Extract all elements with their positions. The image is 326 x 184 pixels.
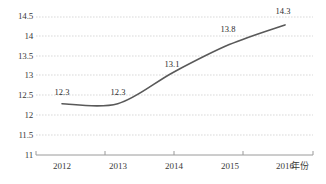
y-tick-label: 13.5 xyxy=(18,52,33,61)
x-tick-label-2014: 2014 xyxy=(165,162,183,171)
data-label-2014: 13.1 xyxy=(165,60,180,69)
y-tick-label: 13 xyxy=(24,71,33,80)
data-label-2015: 13.8 xyxy=(221,25,236,34)
chart-plot-area xyxy=(0,0,326,184)
x-tick-label-2012: 2012 xyxy=(53,162,71,171)
y-tick-label: 11.5 xyxy=(18,131,33,140)
y-tick-label: 12 xyxy=(24,111,33,120)
x-tick-label-2013: 2013 xyxy=(109,162,127,171)
line-chart: 14.5 14 13.5 13 12.5 12 11.5 11 2012 201… xyxy=(0,0,326,184)
x-tick-label-2015: 2015 xyxy=(221,162,239,171)
x-axis-line-group xyxy=(36,151,313,155)
y-tick-label: 14.5 xyxy=(18,12,33,21)
data-label-2013: 12.3 xyxy=(111,88,126,97)
y-tick-label: 11 xyxy=(25,151,33,160)
y-axis: 14.5 14 13.5 13 12.5 12 11.5 11 xyxy=(0,0,33,184)
y-tick-label: 14 xyxy=(24,32,33,41)
x-axis-title: 年份 xyxy=(291,162,309,171)
horizontal-gridlines xyxy=(36,17,313,135)
y-tick-label: 12.5 xyxy=(18,91,33,100)
data-label-2012: 12.3 xyxy=(55,88,70,97)
data-label-2016: 14.3 xyxy=(276,7,291,16)
